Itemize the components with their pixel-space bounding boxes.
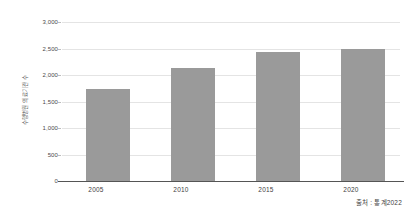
y-axis-tick-labels: 3,000 2,500 2,000 1,500 1,000 500 0	[0, 22, 58, 181]
y-tick-label-1000: 1,000	[4, 125, 58, 131]
y-tick-label-1500: 1,500	[4, 99, 58, 105]
bar-2010[interactable]	[171, 68, 215, 181]
y-tick-mark-3000	[58, 22, 61, 23]
y-tick-label-500: 500	[4, 152, 58, 158]
y-tick-mark-1000	[58, 128, 61, 129]
bar-2020[interactable]	[341, 49, 385, 181]
bar-chart-figure: 수행병원 의료기관 수 3,000 2,500 2,000 1,500 1,00…	[0, 0, 414, 224]
y-tick-label-2000: 2,000	[4, 72, 58, 78]
bar-2015[interactable]	[256, 52, 300, 181]
gridline-3000	[62, 22, 400, 23]
source-note: 출처 : 통계2022	[356, 199, 402, 207]
y-tick-mark-1500	[58, 102, 61, 103]
plot-area	[62, 22, 400, 181]
y-tick-label-3000: 3,000	[4, 19, 58, 25]
y-tick-mark-2500	[58, 49, 61, 50]
x-tick-label-2005: 2005	[66, 186, 126, 194]
x-tick-label-2015: 2015	[236, 186, 296, 194]
x-axis-baseline	[58, 181, 404, 182]
y-tick-mark-500	[58, 155, 61, 156]
bar-2005[interactable]	[86, 89, 130, 181]
x-tick-label-2010: 2010	[151, 186, 211, 194]
y-tick-label-2500: 2,500	[4, 46, 58, 52]
y-tick-label-0: 0	[4, 178, 58, 184]
x-tick-label-2020: 2020	[321, 186, 381, 194]
y-tick-mark-2000	[58, 75, 61, 76]
